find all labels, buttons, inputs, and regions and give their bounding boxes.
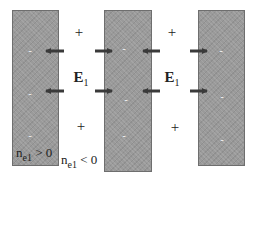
density-label-gap: ne1 < 0	[61, 152, 97, 170]
density-label-slab: ne1 > 0	[16, 145, 52, 163]
field-label-e1-left: E1	[73, 69, 88, 88]
field-label-e1-right: E1	[164, 69, 179, 88]
